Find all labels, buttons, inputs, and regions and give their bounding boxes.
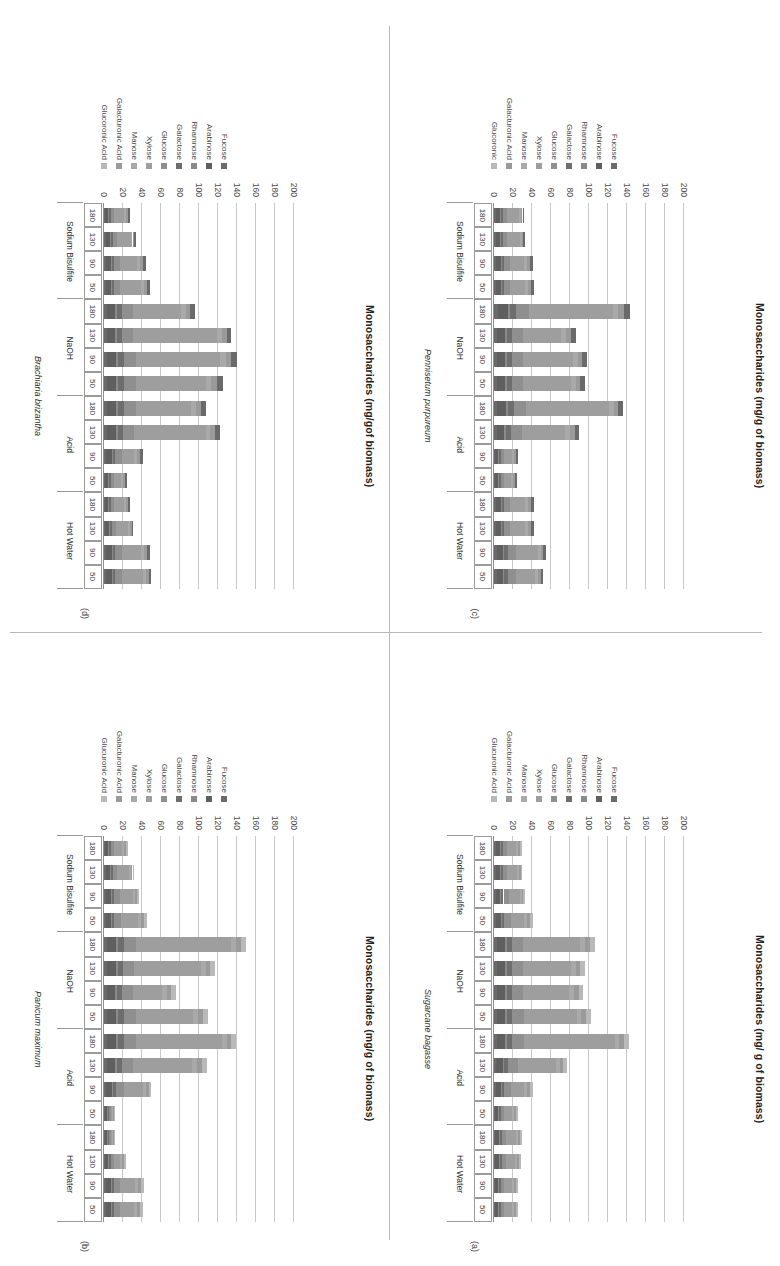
legend-item[interactable]: Manose: [130, 765, 139, 802]
group-separator: [447, 395, 473, 396]
x-axis-category-cell: 90: [474, 444, 492, 468]
legend-item[interactable]: Xylose: [145, 769, 154, 802]
x-axis-group-label: Sodium Bisulfite: [455, 221, 465, 282]
bar-segment: [144, 913, 147, 928]
legend-label: Manose: [130, 132, 139, 160]
legend-swatch-icon: [507, 796, 513, 802]
legend-item[interactable]: Arabinose: [205, 757, 214, 802]
legend-item[interactable]: Manose: [520, 765, 529, 802]
bar-segment: [136, 1009, 193, 1024]
legend-item[interactable]: Rhamnose: [190, 121, 199, 169]
x-axis-category-cell: 130: [84, 324, 102, 348]
bar-segment: [116, 521, 127, 536]
x-axis-group-label: NaOH: [455, 969, 465, 993]
value-axis-line: [493, 836, 494, 1222]
legend-item[interactable]: Galactose: [565, 124, 574, 169]
legend-label: Galactose: [175, 757, 184, 793]
y-axis-tick-label: 20: [118, 821, 128, 830]
legend-item[interactable]: Rhamnose: [580, 121, 589, 169]
x-axis-group-cell: Hot Water: [57, 1126, 83, 1223]
x-axis-group-label: NaOH: [455, 336, 465, 360]
legend-swatch-icon: [492, 163, 498, 169]
panel-b: (b)Monosaccharides (mg/g of biomass)0204…: [0, 633, 390, 1266]
bar-segment: [510, 521, 525, 536]
y-axis-tick-label: 160: [641, 816, 651, 830]
legend-item[interactable]: Manose: [520, 132, 529, 169]
x-axis-category-label: 180: [479, 938, 488, 951]
bar-segment: [579, 985, 584, 1000]
legend-item[interactable]: Fucose: [610, 767, 619, 802]
bar-segment: [523, 985, 569, 1000]
legend-item[interactable]: Xylose: [535, 136, 544, 169]
x-axis-category-label: 50: [89, 1109, 98, 1118]
legend-item[interactable]: Galactose: [565, 757, 574, 802]
bar-segment: [516, 1202, 518, 1217]
bar-segment: [136, 352, 220, 367]
legend-item[interactable]: Galacturonic Acid: [505, 731, 514, 802]
bar-segment: [580, 961, 585, 976]
legend-item[interactable]: Galactose: [175, 757, 184, 802]
legend-label: Glucose: [160, 764, 169, 793]
y-axis-tick-label: 100: [584, 816, 594, 830]
legend-item[interactable]: Glucose: [160, 764, 169, 802]
bar-segment: [518, 1058, 556, 1073]
value-axis-line: [103, 203, 104, 589]
legend-item[interactable]: Galacturonic Acid: [115, 731, 124, 802]
bar-segment: [107, 1009, 117, 1024]
legend-item[interactable]: Galacturonic Acid: [115, 98, 124, 169]
x-axis-category-cell: 50: [84, 468, 102, 492]
legend-item[interactable]: Glucose: [550, 131, 559, 169]
bar-segment: [114, 1106, 115, 1121]
legend-item[interactable]: Glucoronic Acid: [100, 104, 109, 169]
legend-item[interactable]: Fucose: [220, 767, 229, 802]
chart-title: Brachiaria brizantha: [33, 203, 43, 589]
legend-swatch-icon: [147, 163, 153, 169]
legend-item[interactable]: Xylose: [145, 136, 154, 169]
legend-item[interactable]: Glucoronic: [490, 122, 499, 169]
legend-swatch-icon: [537, 163, 543, 169]
legend-label: Arabinose: [595, 124, 604, 160]
bar-segment: [122, 449, 134, 464]
legend-label: Manose: [130, 765, 139, 793]
legend-item[interactable]: Arabinose: [595, 124, 604, 169]
bar-segment: [210, 961, 215, 976]
legend-item[interactable]: Glucose: [550, 764, 559, 802]
legend-item[interactable]: Galactose: [175, 124, 184, 169]
bar-segment: [531, 521, 534, 536]
x-axis-category-cell: 180: [474, 203, 492, 227]
bar-segment: [575, 425, 580, 440]
legend-item[interactable]: Fucose: [610, 134, 619, 169]
legend-item[interactable]: Arabinose: [595, 757, 604, 802]
legend-item[interactable]: Galacturonic Acid: [505, 98, 514, 169]
value-axis-line: [103, 836, 104, 1222]
x-axis-category-cell: 180: [84, 836, 102, 860]
x-axis-category-cell: 130: [474, 517, 492, 541]
group-separator: [447, 1028, 473, 1029]
bar-segment: [116, 1082, 124, 1097]
legend-swatch-icon: [522, 163, 528, 169]
value-axis-line: [493, 203, 494, 589]
group-separator: [57, 932, 83, 933]
bar-segment: [523, 232, 525, 247]
x-axis-group-label: Acid: [455, 1069, 465, 1086]
legend-item[interactable]: Xylose: [535, 769, 544, 802]
bar-segment: [563, 1058, 567, 1073]
legend-label: Xylose: [145, 769, 154, 793]
legend-item[interactable]: Arabinose: [205, 124, 214, 169]
legend-item[interactable]: Manose: [130, 132, 139, 169]
y-axis-tick-label: 80: [565, 188, 575, 197]
x-axis-category-label: 180: [89, 498, 98, 511]
group-separator: [447, 1125, 473, 1126]
x-axis-category-label: 180: [479, 208, 488, 221]
legend-label: Fucose: [220, 134, 229, 160]
legend-item[interactable]: Rhamnose: [580, 754, 589, 802]
legend-item[interactable]: Rhamnose: [190, 754, 199, 802]
legend-label: Xylose: [535, 769, 544, 793]
legend-item[interactable]: Glucose: [160, 131, 169, 169]
legend-item[interactable]: Glucuronic Acid: [100, 737, 109, 802]
bar-segment: [124, 937, 136, 952]
bar-segment: [541, 569, 544, 584]
y-axis-tick-label: 20: [118, 188, 128, 197]
legend-item[interactable]: Fucose: [220, 134, 229, 169]
legend-item[interactable]: Glucuronic Acid: [490, 737, 499, 802]
